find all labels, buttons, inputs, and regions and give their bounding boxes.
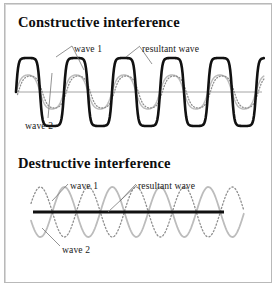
label-resultant-wave-constructive: resultant wave (142, 43, 199, 54)
panel-constructive-interference: Constructive interference wave 1 resulta… (0, 0, 277, 148)
leader-line-wave-1 (52, 184, 68, 201)
label-resultant-wave-destructive: resultant wave (138, 180, 195, 191)
label-wave-2-constructive: wave 2 (25, 120, 53, 131)
destructive-wave-plot (0, 148, 277, 287)
label-wave-2-destructive: wave 2 (62, 244, 90, 255)
label-wave-1-destructive: wave 1 (70, 180, 98, 191)
leader-line-wave-2 (48, 73, 52, 118)
label-wave-1-constructive: wave 1 (74, 43, 102, 54)
panel-destructive-interference: Destructive interference wave 1 resultan… (0, 148, 277, 287)
leader-line-resultant (126, 46, 140, 57)
leader-line-wave-1 (56, 46, 72, 57)
interference-figure: Constructive interference wave 1 resulta… (0, 0, 277, 287)
leader-line-wave-2 (42, 228, 60, 246)
